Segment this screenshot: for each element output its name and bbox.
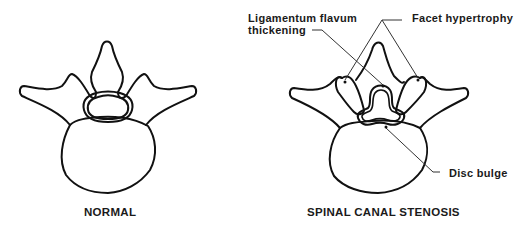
label-facet-hypertrophy: Facet hypertrophy	[412, 12, 513, 24]
facet-leader	[345, 20, 418, 80]
label-ligamentum-flavum-line2: thickening	[248, 24, 306, 36]
stenosis-posterior-arch	[290, 77, 342, 128]
normal-vertebra	[20, 42, 196, 194]
normal-vertebral-body	[62, 117, 155, 193]
normal-spinal-canal-inner	[88, 96, 128, 120]
stenosis-vertebra	[290, 43, 468, 193]
caption-spinal-canal-stenosis: SPINAL CANAL STENOSIS	[307, 206, 460, 218]
caption-normal: NORMAL	[84, 206, 136, 218]
stenosis-spinous-process	[356, 43, 404, 83]
disc-leader	[386, 128, 440, 172]
stenosis-spinal-canal-inner	[362, 90, 400, 121]
label-disc-bulge: Disc bulge	[449, 167, 508, 179]
stenosis-vertebral-body	[330, 121, 427, 193]
label-ligamentum-flavum-line1: Ligamentum flavum	[248, 12, 357, 24]
left-facet-hypertrophy	[336, 76, 364, 114]
normal-posterior-arch	[20, 42, 196, 126]
